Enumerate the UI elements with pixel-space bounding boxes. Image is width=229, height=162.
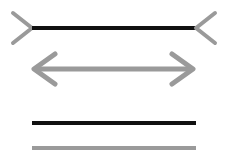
fins-in-line-group — [13, 13, 215, 43]
fins-in-right-cap-icon — [196, 13, 215, 43]
fins-in-left-cap-icon — [13, 13, 32, 43]
fins-out-arrow-group — [34, 54, 193, 84]
illusion-figure-svg — [0, 0, 229, 162]
illusion-figure-canvas — [0, 0, 229, 162]
